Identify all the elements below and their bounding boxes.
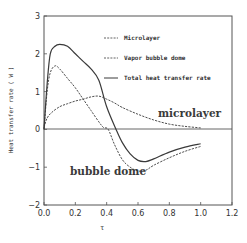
x-tick-label: 0.8: [163, 209, 176, 218]
x-tick-label: 0.2: [69, 209, 82, 218]
x-tick-label: 0.6: [132, 209, 145, 218]
annotation-microlayer: microlayer: [158, 107, 222, 119]
y-tick-label: 2: [35, 50, 40, 59]
heat-transfer-chart: 0.00.20.40.60.81.01.2 3210−1−2 Heat tran…: [0, 0, 247, 243]
y-tick-label: 1: [35, 88, 40, 97]
x-tick-label: 1.2: [226, 209, 239, 218]
y-tick-label: −2: [28, 201, 40, 210]
x-tick-label: 1.0: [194, 209, 207, 218]
legend-label-total: Total heat transfer rate: [124, 74, 211, 81]
legend: Microlayer Vapor bubble dome Total heat …: [104, 34, 211, 81]
series-total-heat-transfer-rate: [44, 44, 201, 161]
x-axis-ticks: 0.00.20.40.60.81.01.2: [38, 202, 239, 218]
y-axis-label: Heat transfer rate ( W ): [7, 67, 14, 154]
x-tick-label: 0.0: [38, 209, 51, 218]
y-tick-label: 3: [35, 12, 40, 21]
legend-label-microlayer: Microlayer: [124, 34, 161, 42]
y-tick-label: −1: [28, 163, 40, 172]
y-tick-label: 0: [35, 125, 40, 134]
legend-label-vapor-bubble-dome: Vapor bubble dome: [124, 54, 186, 62]
x-axis-label: τ: [100, 224, 104, 232]
x-tick-label: 0.4: [100, 209, 113, 218]
annotation-bubble-dome: bubble dome: [70, 165, 146, 177]
